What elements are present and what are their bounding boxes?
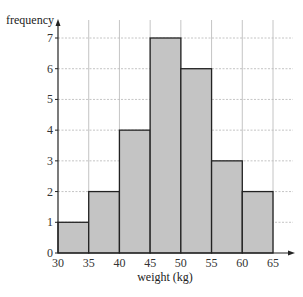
histogram-bar-55-60: [212, 161, 243, 253]
histogram-bar-50-55: [181, 69, 212, 253]
x-tick-labels: 3035404550556065: [52, 256, 279, 270]
histogram-chart: 01234567 3035404550556065 frequency weig…: [0, 0, 303, 297]
histogram-bar-40-45: [119, 130, 150, 253]
y-tick-labels: 01234567: [47, 31, 58, 260]
y-tick-label: 7: [47, 31, 53, 45]
x-tick-label: 65: [267, 256, 279, 270]
histogram-bar-60-65: [242, 192, 273, 253]
y-axis-label: frequency: [6, 13, 54, 27]
y-tick-label: 6: [47, 62, 53, 76]
histogram-bar-35-40: [89, 192, 120, 253]
x-axis-label: weight (kg): [137, 270, 193, 284]
y-axis-arrow-icon: [56, 19, 61, 26]
y-tick-label: 4: [47, 123, 53, 137]
y-tick-label: 3: [47, 154, 53, 168]
histogram-bars: [58, 38, 273, 253]
x-tick-label: 45: [144, 256, 156, 270]
histogram-bar-45-50: [150, 38, 181, 253]
x-tick-label: 55: [206, 256, 218, 270]
y-tick-label: 2: [47, 185, 53, 199]
x-tick-label: 40: [113, 256, 125, 270]
y-tick-label: 1: [47, 215, 53, 229]
x-tick-label: 30: [52, 256, 64, 270]
histogram-bar-30-35: [58, 222, 89, 253]
x-tick-label: 50: [175, 256, 187, 270]
x-tick-label: 35: [83, 256, 95, 270]
x-axis-arrow-icon: [288, 251, 295, 256]
y-tick-label: 5: [47, 92, 53, 106]
x-tick-label: 60: [236, 256, 248, 270]
